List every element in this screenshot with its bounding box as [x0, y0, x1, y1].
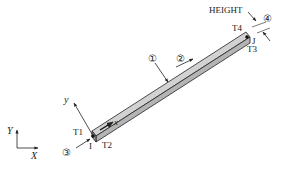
- global-x-label: X: [30, 150, 38, 161]
- load-4-label: ④: [263, 13, 272, 24]
- global-y-label: Y: [7, 125, 14, 136]
- corner-t3-label: T3: [247, 44, 257, 54]
- load-3-label: ③: [62, 147, 71, 158]
- load-1-label: ①: [148, 53, 157, 64]
- corner-t4-label: T4: [232, 23, 242, 33]
- load-2-label: ②: [176, 53, 185, 64]
- load-3-arrow: [76, 139, 90, 148]
- corner-t1-label: T1: [73, 127, 83, 137]
- local-y-label: y: [63, 94, 69, 105]
- corner-t2-label: T2: [102, 140, 112, 150]
- load-1-arrow: [155, 63, 168, 82]
- height-label: HEIGHT: [209, 5, 243, 15]
- node-j-marker: [245, 35, 249, 39]
- beam-element-diagram: HEIGHT ④ T4 J T3 ① ② y x T1 T2 I ③ Y X: [0, 0, 282, 170]
- node-i-label: I: [89, 141, 92, 151]
- node-i-marker: [91, 134, 95, 138]
- height-arrow-bottom: [263, 32, 270, 41]
- height-arrow-top: [248, 12, 256, 21]
- local-x-label: x: [113, 117, 118, 127]
